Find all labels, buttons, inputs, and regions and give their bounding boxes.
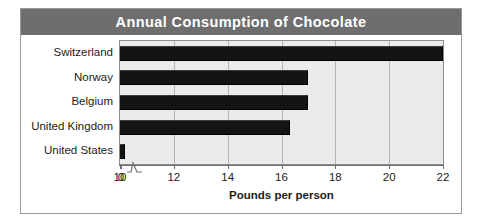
y-axis-category-labels: SwitzerlandNorwayBelgiumUnited KingdomUn… — [21, 41, 117, 163]
x-axis-title: Pounds per person — [119, 189, 444, 201]
x-axis-tick-label: 16 — [275, 171, 288, 183]
plot-wrapper: SwitzerlandNorwayBelgiumUnited KingdomUn… — [21, 35, 461, 214]
y-axis-label: Norway — [74, 72, 113, 84]
x-axis-tick-label: 10 — [114, 171, 127, 183]
x-axis-tick — [121, 165, 122, 169]
bar — [120, 70, 308, 85]
x-axis-tick-label: 18 — [329, 171, 342, 183]
axis-break-zigzag-icon — [125, 161, 145, 173]
y-axis-label: Belgium — [71, 96, 113, 108]
y-axis-label: Switzerland — [54, 47, 113, 59]
bar — [120, 95, 308, 110]
x-axis-tick — [174, 165, 175, 169]
page-title: Annual Consumption of Chocolate — [116, 14, 367, 30]
bar-row — [120, 144, 443, 160]
x-axis-tick — [443, 165, 444, 169]
bar-row — [120, 45, 443, 61]
bar-row — [120, 119, 443, 135]
x-axis-tick-label: 12 — [167, 171, 180, 183]
bar-series — [120, 41, 443, 164]
x-axis-tick — [282, 165, 283, 169]
y-axis-label: United Kingdom — [31, 121, 113, 133]
plot-area — [119, 40, 444, 165]
bar — [120, 144, 125, 159]
x-axis-tick — [389, 165, 390, 169]
x-axis-tick — [335, 165, 336, 169]
y-axis-label: United States — [44, 145, 113, 157]
bar — [120, 120, 290, 135]
bar-row — [120, 94, 443, 110]
x-axis-tick — [228, 165, 229, 169]
x-axis-tick — [120, 165, 121, 169]
chart-title-bar: Annual Consumption of Chocolate — [21, 9, 461, 35]
bar — [120, 46, 443, 61]
x-axis-tick-label: 20 — [383, 171, 396, 183]
x-axis-tick-label: 22 — [437, 171, 450, 183]
chart-figure: Annual Consumption of Chocolate Switzerl… — [0, 0, 484, 224]
chart-card: Annual Consumption of Chocolate Switzerl… — [20, 8, 462, 214]
bar-row — [120, 70, 443, 86]
x-axis-tick-label: 14 — [221, 171, 234, 183]
